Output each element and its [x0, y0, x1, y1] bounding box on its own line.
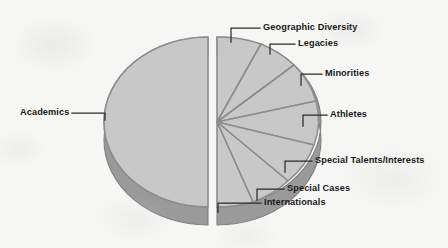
pie-label-geographic-diversity: Geographic Diversity: [263, 23, 357, 32]
pie-label-legacies: Legacies: [298, 39, 338, 48]
pie-label-athletes: Athletes: [330, 110, 367, 119]
pie-label-internationals: Internationals: [264, 198, 326, 207]
pie-label-special-cases: Special Cases: [287, 184, 350, 193]
leader-line-academics: [72, 113, 105, 120]
pie-label-minorities: Minorities: [325, 69, 369, 78]
pie-label-special-talents: Special Talents/Interests: [315, 156, 425, 165]
pie-label-academics: Academics: [20, 108, 69, 117]
pie-chart-graphic: [0, 0, 448, 248]
pie-chart-figure: Academics Geographic Diversity Legacies …: [0, 0, 448, 248]
